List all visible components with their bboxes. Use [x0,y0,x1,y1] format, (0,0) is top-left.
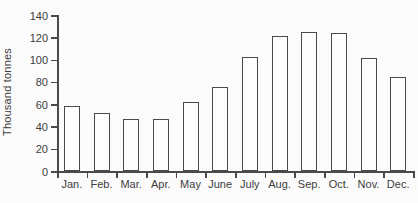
x-tick-mark [235,173,237,178]
x-tick-mark [354,173,356,178]
y-tick-label: 100 [18,54,48,67]
y-axis-line [57,15,59,173]
x-tick-mark [413,173,415,178]
y-tick-mark [51,104,57,106]
y-tick-label: 20 [18,143,48,156]
bar-chart: Thousand tonnes 020406080100120140Jan.Fe… [0,0,418,203]
y-tick-label: 40 [18,121,48,134]
x-tick-mark [265,173,267,178]
bar-sep [301,32,317,171]
bar-june [212,87,228,171]
bar-jan [64,106,80,171]
bar-aug [272,36,288,171]
bar-may [183,102,199,171]
y-tick-label: 60 [18,99,48,112]
x-tick-label: Dec. [378,178,418,191]
y-tick-label: 80 [18,76,48,89]
bar-apr [153,119,169,171]
x-tick-mark [205,173,207,178]
x-tick-mark [116,173,118,178]
x-tick-mark [57,173,59,178]
y-tick-mark [51,60,57,62]
x-tick-mark [146,173,148,178]
x-tick-mark [294,173,296,178]
bar-feb [94,113,110,171]
y-tick-mark [51,37,57,39]
y-tick-mark [51,15,57,17]
y-tick-mark [51,82,57,84]
y-tick-mark [51,149,57,151]
x-tick-mark [87,173,89,178]
y-tick-label: 120 [18,32,48,45]
x-tick-mark [176,173,178,178]
x-tick-mark [324,173,326,178]
y-tick-label: 0 [18,166,48,179]
bar-july [242,57,258,171]
y-axis-title: Thousand tonnes [1,32,13,152]
y-tick-label: 140 [18,10,48,23]
y-tick-mark [51,126,57,128]
bar-oct [331,33,347,171]
bar-nov [361,58,377,171]
bar-mar [123,119,139,171]
x-tick-mark [383,173,385,178]
bar-dec [390,77,406,171]
